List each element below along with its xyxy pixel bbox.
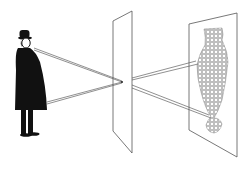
man-figure — [15, 30, 47, 137]
inverted-image — [197, 28, 228, 133]
pinhole — [121, 81, 123, 83]
diagram-canvas — [0, 0, 248, 171]
incoming-rays — [34, 48, 122, 104]
pinhole-camera-diagram — [0, 0, 248, 171]
